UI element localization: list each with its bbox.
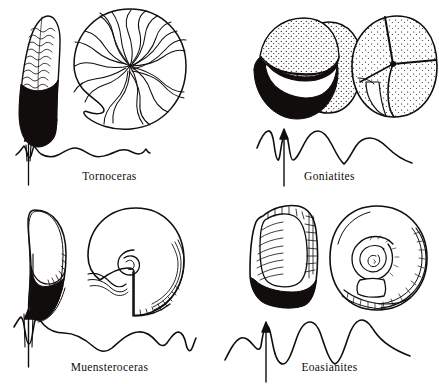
ammonoid-coil-swirl-icon [74,9,186,129]
caption-eoasianites: Eoasianites [220,361,439,373]
panel-goniatites [220,0,439,192]
venter-arrow [262,322,270,382]
caption-muensteroceras: Muensteroceras [0,361,219,373]
ammonoid-ventral-elongate-icon [19,16,60,147]
ammonoid-globose-involute-icon [352,16,437,117]
ammonoid-coil-evolute-icon [330,206,427,310]
ammonoid-coil-involute-icon [88,208,184,316]
suture-line-goniatites [257,131,412,164]
caption-tornoceras: Tornoceras [0,170,219,182]
caption-goniatites: Goniatites [220,170,439,182]
ammonoid-oval-narrow-icon [28,210,66,322]
panel-muensteroceras [0,192,219,384]
panel-tornoceras [0,0,219,192]
ammonoid-barrel-ribbed-icon [250,205,318,308]
figure-plate: Tornoceras [0,0,439,384]
suture-line-eoasianites [225,320,410,364]
ammonoid-globose-stippled-icon [254,18,362,119]
suture-line-tornoceras [16,145,150,161]
panel-eoasianites [220,192,439,384]
